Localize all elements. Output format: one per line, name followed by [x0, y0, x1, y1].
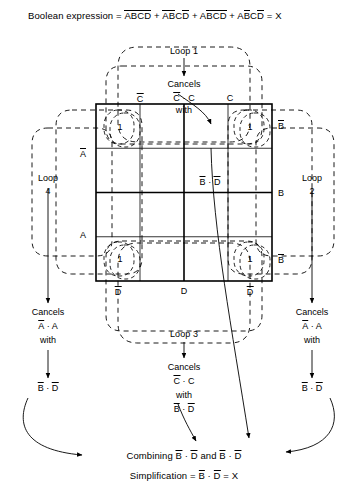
- loop-4-label: Loop 4: [38, 172, 58, 198]
- kmap-cell-one-bottom-left: 1: [117, 254, 122, 264]
- simplification-term: B · D: [198, 470, 223, 481]
- loop-2-label: Loop 2: [302, 172, 322, 198]
- loop-1-cancel-pair: C · C: [173, 92, 195, 104]
- col-label-d-bar-left: D: [115, 286, 122, 298]
- expression-equals: =: [267, 10, 273, 21]
- expression-prefix: Boolean expression =: [28, 10, 122, 21]
- diagram-graphics: [0, 0, 360, 500]
- col-label-d: D: [181, 286, 188, 297]
- loop-3-cancel-pair: C · C: [173, 375, 194, 388]
- boolean-expression: Boolean expression = ABCD + ABCD + ABCD …: [28, 10, 282, 21]
- term-1: ABCD: [124, 10, 154, 21]
- kmap-cell-one-bottom-right: 1: [247, 254, 252, 264]
- loop-2-label-line1: Loop: [302, 173, 322, 183]
- loop-4-result: B · D: [38, 382, 59, 395]
- loop-4-to-conclusion-arrow: [23, 398, 82, 455]
- plus-3: +: [229, 10, 235, 21]
- loop-4-label-line2: 4: [45, 186, 50, 196]
- row-label-b: B: [278, 188, 284, 199]
- loop-2-result: B · D: [302, 382, 323, 395]
- kmap-cell-one-top-left: 1: [117, 122, 122, 132]
- plus-1: +: [154, 10, 160, 21]
- loop-3-cancels-word: Cancels: [168, 361, 201, 374]
- and-word: and: [200, 450, 216, 461]
- loop-1-with-word: with: [176, 105, 192, 116]
- center-annotation-b-d: B · D: [199, 176, 220, 188]
- simplification-word: Simplification =: [130, 470, 196, 481]
- loop-4-label-line1: Loop: [38, 173, 58, 183]
- kmap-diagram: Boolean expression = ABCD + ABCD + ABCD …: [0, 0, 360, 500]
- loop-3-label: Loop 3: [170, 329, 198, 340]
- conclusion-combining: Combining B · D and B · D: [126, 450, 241, 461]
- kmap-cell-one-top-right: 1: [247, 122, 252, 132]
- term-4: ABCD: [237, 10, 267, 21]
- loop-2-cancel-pair: A · A: [302, 320, 322, 333]
- col-label-c: C: [227, 93, 234, 104]
- loop-2-label-line2: 2: [309, 186, 314, 196]
- combining-term-2: B · D: [219, 450, 241, 461]
- loop-1-label: Loop 1: [170, 46, 198, 57]
- loop-3-with-word: with: [176, 389, 192, 402]
- combining-word: Combining: [126, 450, 172, 461]
- simplification-equals: =: [223, 470, 229, 481]
- loop-2-with-word: with: [304, 334, 320, 347]
- center-to-conclusion-arrow: [211, 148, 249, 438]
- cell-highlight-ovals: [104, 110, 270, 279]
- row-label-b-bar-bottom: B: [278, 254, 284, 266]
- combining-term-1: B · D: [176, 450, 201, 461]
- col-label-d-bar-right: D: [247, 286, 254, 298]
- loop-2-cancels-word: Cancels: [296, 306, 329, 319]
- row-label-a-bar: A: [80, 148, 86, 160]
- loop-2-to-conclusion-arrow: [286, 398, 334, 452]
- row-label-a: A: [80, 230, 86, 241]
- term-3: ABCD: [200, 10, 230, 21]
- plus-2: +: [192, 10, 198, 21]
- term-2: ABCD: [162, 10, 192, 21]
- loop-4-cancels-word: Cancels: [32, 306, 65, 319]
- loop-1-cancels-word: Cancels: [167, 79, 200, 90]
- simplification-result: X: [232, 470, 238, 481]
- loop-4-with-word: with: [40, 334, 56, 347]
- expression-result: X: [275, 10, 281, 21]
- row-label-b-bar-top: B: [278, 120, 284, 132]
- conclusion-simplification: Simplification = B · D = X: [130, 470, 238, 481]
- loop-3-result: B · D: [174, 403, 195, 416]
- loop-4-cancel-pair: A · A: [38, 320, 58, 333]
- col-label-c-bar: C: [137, 93, 144, 105]
